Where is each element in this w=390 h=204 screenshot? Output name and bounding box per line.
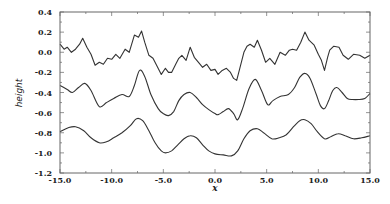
y-tick-label: -1.2 xyxy=(35,168,52,178)
y-tick-label: -0.8 xyxy=(35,128,53,138)
x-axis-label: x xyxy=(211,183,218,193)
y-tick-label: -0.2 xyxy=(35,67,52,77)
x-tick-label: 5.0 xyxy=(260,175,274,185)
axis-ticks xyxy=(60,12,370,173)
series-line-3 xyxy=(60,118,370,156)
y-axis-tick-labels: 0.40.20.0-0.2-0.4-0.6-0.8-1.0-1.2 xyxy=(35,7,53,178)
line-chart: -15.0-10.0-5.00.05.010.015.0 0.40.20.0-0… xyxy=(0,0,390,204)
x-tick-label: -10.0 xyxy=(100,175,123,185)
x-tick-label: -5.0 xyxy=(155,175,173,185)
y-tick-label: -0.4 xyxy=(35,88,53,98)
y-tick-label: -1.0 xyxy=(35,148,53,158)
x-tick-label: 15.0 xyxy=(360,175,380,185)
y-tick-label: 0.0 xyxy=(38,47,52,57)
x-tick-label: 10.0 xyxy=(309,175,329,185)
plot-frame xyxy=(60,12,370,173)
data-series xyxy=(60,31,370,156)
y-tick-label: -0.6 xyxy=(35,108,53,118)
series-line-1 xyxy=(60,31,370,80)
y-tick-label: 0.4 xyxy=(38,7,52,17)
x-tick-label: -15.0 xyxy=(49,175,72,185)
y-tick-label: 0.2 xyxy=(38,27,52,37)
series-line-2 xyxy=(60,70,370,120)
y-axis-label: height xyxy=(14,78,24,107)
